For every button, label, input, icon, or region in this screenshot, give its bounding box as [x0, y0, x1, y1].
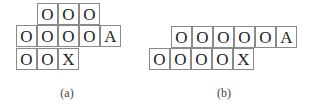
grid-cell-o: O: [79, 3, 100, 25]
grid-cell-o: O: [37, 25, 58, 47]
grid-cell-o: O: [255, 26, 276, 48]
grid-cell-o: O: [192, 26, 213, 48]
figure-caption: (b): [217, 86, 231, 101]
grid-cell-o: O: [149, 48, 170, 70]
grid-cell-o: O: [212, 48, 233, 70]
grid-cell-o: O: [16, 25, 37, 47]
grid-cell-o: O: [171, 26, 192, 48]
grid-cell-o: O: [191, 48, 212, 70]
grid-cell-o: O: [234, 26, 255, 48]
grid-cell-o: O: [16, 48, 37, 70]
grid-cell-a: A: [276, 26, 297, 48]
grid-cell-x: X: [58, 48, 79, 70]
grid-cell-o: O: [37, 48, 58, 70]
grid-cell-o: O: [170, 48, 191, 70]
figure-caption: (a): [60, 86, 73, 101]
grid-cell-x: X: [233, 48, 254, 70]
grid-cell-o: O: [79, 25, 100, 47]
grid-cell-o: O: [213, 26, 234, 48]
grid-cell-a: A: [100, 25, 121, 47]
grid-cell-o: O: [37, 3, 58, 25]
grid-cell-o: O: [58, 25, 79, 47]
grid-cell-o: O: [58, 3, 79, 25]
